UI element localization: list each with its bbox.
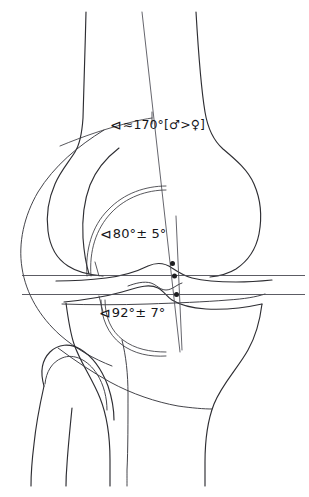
annotation-lateral-distal-femoral-angle: ⊲80°± 5° [100, 226, 166, 240]
femur-medial-condyle-inner [83, 148, 119, 274]
annotation-lateral-distal-femoral-angle-value: 80°± 5° [113, 226, 167, 241]
femur-medial-cortex [47, 12, 103, 276]
angle-symbol-icon: ⊲ [99, 305, 111, 321]
tibia-medial-cortex [66, 303, 110, 486]
tick-80-leader [95, 262, 99, 276]
fibula-shaft-medial [66, 408, 72, 486]
landmark-dot-femoral-notch [170, 261, 175, 266]
tibial-plateau-subchondral [62, 294, 265, 305]
landmark-dot-joint-line [172, 274, 177, 279]
fibula-shaft-lateral [31, 386, 44, 486]
annotation-femoral-shaft-angle-value: ≈170°[♂>♀] [123, 117, 205, 132]
angle-symbol-icon: ⊲ [100, 226, 112, 242]
knee-diagram-svg [0, 0, 309, 497]
anatomical-figure: ⊲≈170°[♂>♀] ⊲80°± 5° ⊲92°± 7° [0, 0, 309, 497]
reference-lines-group [22, 12, 305, 352]
annotation-medial-proximal-tibial-angle-value: 92°± 7° [112, 305, 166, 320]
femoral-mechanical-axis [142, 12, 180, 352]
landmark-dot-tibial-plateau [174, 292, 179, 297]
femur-intercondylar-notch [128, 282, 182, 290]
fibula-head-medial [45, 356, 107, 410]
tibia-inner-border [122, 340, 128, 486]
annotation-femoral-shaft-angle: ⊲≈170°[♂>♀] [110, 117, 205, 132]
fibula-group [31, 345, 212, 486]
tibia-fibula-overlap-edge [58, 348, 212, 409]
femur-lateral-cortex [196, 12, 261, 277]
annotation-medial-proximal-tibial-angle: ⊲92°± 7° [99, 305, 165, 319]
angle-symbol-icon: ⊲ [110, 117, 122, 133]
tibia-lateral-cortex [205, 304, 262, 486]
